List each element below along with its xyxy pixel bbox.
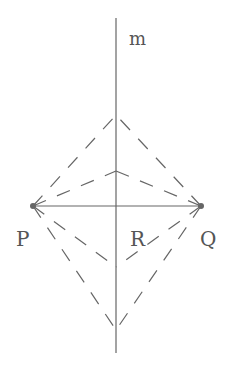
point-p [30, 203, 36, 209]
label-r: R [130, 227, 146, 251]
point-q [198, 203, 204, 209]
label-q: Q [200, 227, 216, 251]
diagram-canvas: m P R Q [0, 0, 232, 374]
label-p: P [16, 227, 29, 251]
dashed-construction-lines [33, 115, 201, 330]
label-m: m [129, 28, 146, 49]
